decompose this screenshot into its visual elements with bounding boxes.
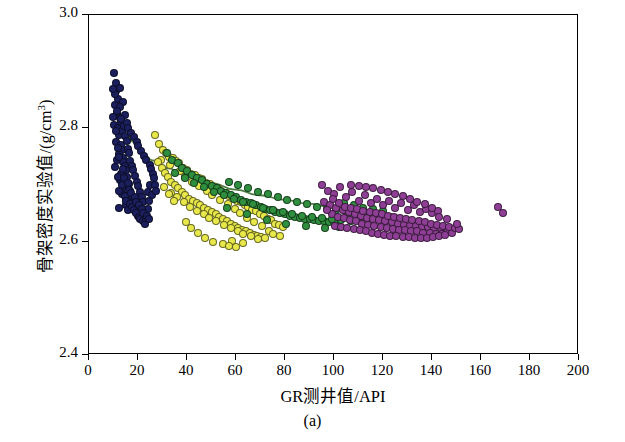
x-tick-mark <box>431 354 432 360</box>
scatter-point <box>361 191 369 199</box>
scatter-points-layer <box>89 15 577 353</box>
figure-caption: (a) <box>0 412 625 430</box>
scatter-point <box>232 243 240 251</box>
scatter-point <box>254 188 262 196</box>
scatter-point <box>369 184 377 192</box>
x-tick-mark <box>333 354 334 360</box>
x-tick-mark <box>480 354 481 360</box>
scatter-point <box>264 190 272 198</box>
scatter-point <box>125 149 133 157</box>
x-tick-mark <box>578 354 579 360</box>
scatter-point <box>230 195 238 203</box>
scatter-point <box>443 215 451 223</box>
scatter-point <box>428 204 436 212</box>
scatter-point <box>165 190 173 198</box>
scatter-point <box>303 200 311 208</box>
scatter-point <box>321 224 329 232</box>
scatter-point <box>282 220 290 228</box>
x-tick-label: 40 <box>166 362 206 379</box>
scatter-point <box>112 127 120 135</box>
scatter-point <box>283 196 291 204</box>
y-tick-mark <box>82 127 88 128</box>
y-tick-mark <box>82 241 88 242</box>
scatter-point <box>209 238 217 246</box>
scatter-point <box>274 193 282 201</box>
scatter-point <box>384 188 392 196</box>
scatter-point <box>276 232 284 240</box>
scatter-point <box>151 131 159 139</box>
x-tick-mark <box>88 354 89 360</box>
x-tick-label: 20 <box>117 362 157 379</box>
scatter-point <box>244 184 252 192</box>
scatter-point <box>293 198 301 206</box>
x-tick-mark <box>137 354 138 360</box>
scatter-point <box>355 197 363 205</box>
y-tick-mark <box>82 354 88 355</box>
scatter-point <box>201 234 209 242</box>
scatter-point <box>263 216 271 224</box>
x-tick-label: 60 <box>215 362 255 379</box>
scatter-point <box>391 190 399 198</box>
y-axis-title-suffix: ) <box>36 99 55 105</box>
scatter-point <box>225 178 233 186</box>
x-tick-label: 100 <box>313 362 353 379</box>
y-axis-title-text: 骨架密度实验值/(g/cm <box>36 110 55 272</box>
scatter-point <box>453 220 461 228</box>
scatter-point <box>210 188 218 196</box>
scatter-point <box>250 218 258 226</box>
x-axis-title: GR测井值/API <box>88 383 578 407</box>
scatter-point <box>259 204 267 212</box>
y-tick-mark <box>82 14 88 15</box>
plot-area <box>88 14 578 354</box>
x-tick-label: 0 <box>68 362 108 379</box>
scatter-point <box>318 214 326 222</box>
scatter-point <box>397 199 405 207</box>
scatter-point <box>114 144 122 152</box>
scatter-point <box>109 85 117 93</box>
x-tick-label: 200 <box>558 362 598 379</box>
scatter-point <box>223 204 231 212</box>
x-tick-mark <box>284 354 285 360</box>
scatter-point <box>279 208 287 216</box>
scatter-point <box>254 235 262 243</box>
x-tick-mark <box>235 354 236 360</box>
y-axis-title: 骨架密度实验值/(g/cm3) <box>32 36 56 336</box>
scatter-point <box>348 188 356 196</box>
scatter-point <box>212 217 220 225</box>
figure-container: 骨架密度实验值/(g/cm3) 020406080100120140160180… <box>0 0 625 442</box>
scatter-point <box>298 212 306 220</box>
scatter-point <box>261 234 269 242</box>
scatter-point <box>406 195 414 203</box>
scatter-point <box>377 186 385 194</box>
scatter-point <box>421 200 429 208</box>
y-tick-label: 2.4 <box>32 344 78 361</box>
scatter-point <box>302 222 310 230</box>
y-tick-label: 2.8 <box>32 117 78 134</box>
scatter-point <box>399 192 407 200</box>
scatter-point <box>181 174 189 182</box>
scatter-point <box>323 206 331 214</box>
x-tick-mark <box>529 354 530 360</box>
x-tick-label: 180 <box>509 362 549 379</box>
scatter-point <box>239 239 247 247</box>
y-tick-label: 3.0 <box>32 4 78 21</box>
x-tick-label: 80 <box>264 362 304 379</box>
scatter-point <box>269 206 277 214</box>
scatter-point <box>115 204 123 212</box>
scatter-point <box>234 181 242 189</box>
y-axis-title-superscript: 3 <box>35 105 47 111</box>
y-tick-label: 2.6 <box>32 231 78 248</box>
x-tick-label: 140 <box>411 362 451 379</box>
scatter-point <box>336 183 344 191</box>
scatter-point <box>355 182 363 190</box>
x-tick-label: 160 <box>460 362 500 379</box>
scatter-point <box>220 191 228 199</box>
scatter-point <box>308 213 316 221</box>
scatter-point <box>110 69 118 77</box>
x-tick-mark <box>382 354 383 360</box>
x-tick-label: 120 <box>362 362 402 379</box>
scatter-point <box>170 197 178 205</box>
scatter-point <box>499 209 507 217</box>
scatter-point <box>194 229 202 237</box>
scatter-point <box>119 165 127 173</box>
